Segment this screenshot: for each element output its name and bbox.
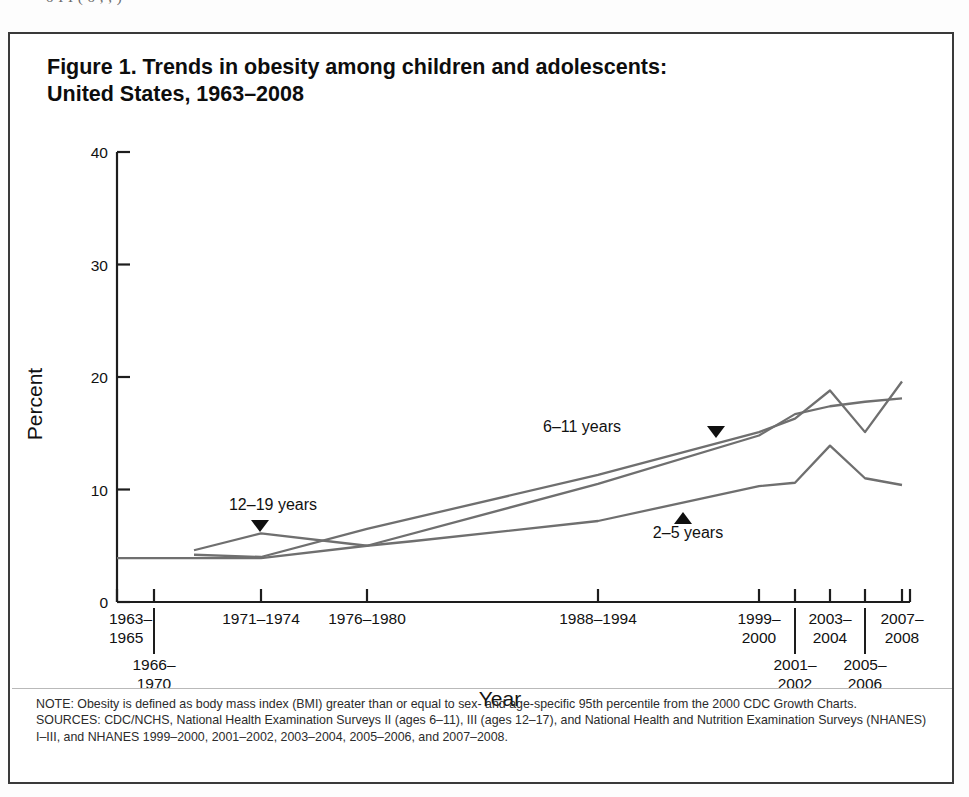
- series-labels: 2–5 years6–11 years12–19 years: [229, 418, 723, 541]
- series-marker: [674, 512, 692, 524]
- x-tick-label: 1966–: [132, 656, 175, 673]
- figure-box: Figure 1. Trends in obesity among childr…: [8, 32, 954, 784]
- chart-plot-area: 010203040 2–5 years6–11 years12–19 years…: [10, 34, 956, 786]
- x-tick-labels: 1963–19651966–19701971–19741976–19801988…: [109, 608, 924, 692]
- series-label: 6–11 years: [543, 418, 621, 435]
- line-chart: 010203040 2–5 years6–11 years12–19 years…: [10, 34, 956, 786]
- series-label: 12–19 years: [229, 496, 317, 513]
- x-tick-label: 1976–1980: [328, 610, 406, 627]
- clipped-header-text: o I I ( o , , ): [0, 0, 969, 16]
- x-axis: [117, 589, 910, 602]
- y-tick-label: 0: [99, 594, 108, 611]
- sources-text: SOURCES: CDC/NCHS, National Health Exami…: [36, 712, 936, 745]
- y-tick-label: 40: [91, 144, 109, 161]
- series-lines: [117, 382, 902, 559]
- note-text: NOTE: Obesity is defined as body mass in…: [36, 696, 936, 712]
- x-tick-label: 2005–: [843, 656, 886, 673]
- x-tick-label: 1963–: [109, 610, 152, 627]
- y-tick-label: 10: [91, 482, 109, 499]
- figure-footnotes: NOTE: Obesity is defined as body mass in…: [36, 696, 936, 745]
- x-tick-label: 2006: [848, 675, 882, 692]
- series-marker: [707, 426, 725, 438]
- x-tick-label: 1970: [137, 675, 172, 692]
- note-divider: [12, 688, 952, 689]
- series-marker: [251, 520, 269, 532]
- y-axis: 010203040: [91, 144, 130, 611]
- series-label: 2–5 years: [653, 524, 723, 541]
- y-tick-label: 30: [91, 257, 109, 274]
- x-tick-label: 2002: [778, 675, 812, 692]
- x-tick-label: 1999–: [737, 610, 780, 627]
- x-tick-label: 2004: [813, 629, 848, 646]
- series-markers: [251, 426, 725, 532]
- x-tick-label: 1971–1974: [222, 610, 300, 627]
- series-line: [194, 382, 902, 558]
- x-tick-label: 2007–: [880, 610, 923, 627]
- x-tick-label: 1965: [109, 629, 143, 646]
- x-tick-label: 2003–: [808, 610, 851, 627]
- y-axis-title: Percent: [23, 368, 46, 441]
- x-tick-label: 2008: [885, 629, 919, 646]
- x-tick-label: 2001–: [773, 656, 816, 673]
- page-root: o I I ( o , , ) Figure 1. Trends in obes…: [0, 0, 969, 797]
- x-tick-label: 2000: [742, 629, 777, 646]
- x-tick-label: 1988–1994: [559, 610, 637, 627]
- y-tick-label: 20: [91, 369, 109, 386]
